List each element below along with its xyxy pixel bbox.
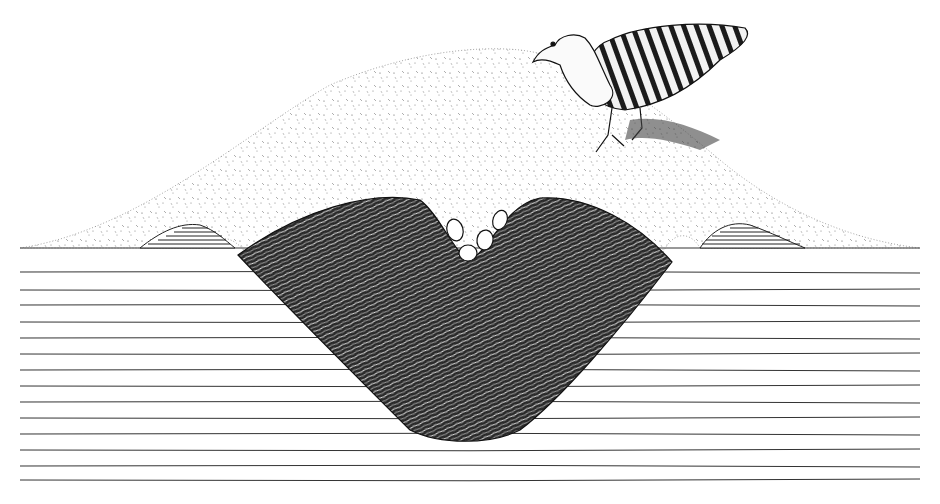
egg <box>459 245 477 261</box>
bird-eye <box>551 42 555 46</box>
illustration: Cross-section of a malleefowl nesting mo… <box>0 0 940 504</box>
sand-mound <box>20 49 920 260</box>
